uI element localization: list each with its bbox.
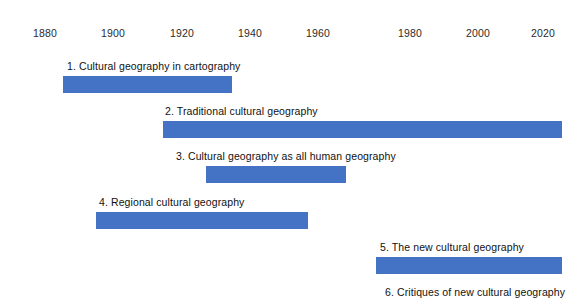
timeline-row-label: 6. Critiques of new cultural geography [385,286,565,299]
timeline-row-bar [163,121,562,138]
timeline-row-label: 3. Cultural geography as all human geogr… [176,150,396,163]
timeline-row-label: 2. Traditional cultural geography [165,105,318,118]
timeline-row-label: 1. Cultural geography in cartography [67,60,240,73]
timeline-tracks: 1. Cultural geography in cartography 2. … [0,0,586,302]
timeline-row-bar [376,257,562,274]
timeline-chart: 1880 1900 1920 1940 1960 1980 2000 2020 … [0,0,586,302]
timeline-row-label: 4. Regional cultural geography [99,196,244,209]
timeline-row-bar [206,166,346,183]
timeline-row-label: 5. The new cultural geography [380,241,524,254]
timeline-row-bar [96,212,308,229]
timeline-row-bar [63,76,232,93]
